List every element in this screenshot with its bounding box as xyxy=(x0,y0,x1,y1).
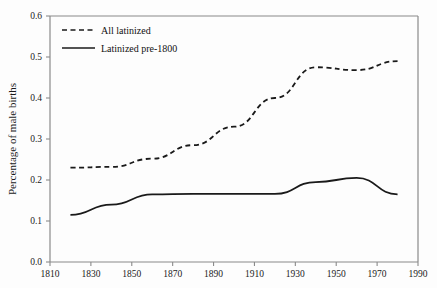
x-axis-ticks: 1810183018501870189019101930195019701990 xyxy=(41,262,428,279)
chart-legend: All latinized Latinized pre-1800 xyxy=(62,25,177,54)
series-line-all-latinized xyxy=(70,61,397,168)
x-tick-label: 1830 xyxy=(81,269,100,279)
x-tick-label: 1970 xyxy=(368,269,387,279)
legend-label-latinized-pre-1800: Latinized pre-1800 xyxy=(101,43,177,54)
y-tick-label: 0.2 xyxy=(30,175,42,185)
y-tick-label: 0.3 xyxy=(30,134,42,144)
y-tick-label: 0.5 xyxy=(30,52,42,62)
x-tick-label: 1850 xyxy=(122,269,141,279)
y-axis-ticks: 0.00.10.20.30.40.50.6 xyxy=(30,11,50,267)
y-axis-title: Percentage of male births xyxy=(6,83,18,195)
chart-figure: 0.00.10.20.30.40.50.6 181018301850187018… xyxy=(0,0,437,288)
chart-plot-area: 0.00.10.20.30.40.50.6 181018301850187018… xyxy=(0,0,437,288)
x-tick-label: 1990 xyxy=(409,269,428,279)
x-tick-label: 1810 xyxy=(41,269,60,279)
data-series-group xyxy=(70,61,397,215)
y-tick-label: 0.6 xyxy=(30,11,42,21)
y-tick-label: 0.4 xyxy=(30,93,42,103)
x-tick-label: 1910 xyxy=(245,269,264,279)
x-tick-label: 1950 xyxy=(327,269,346,279)
x-tick-label: 1930 xyxy=(286,269,305,279)
y-tick-label: 0.0 xyxy=(30,257,42,267)
x-tick-label: 1870 xyxy=(163,269,182,279)
x-tick-label: 1890 xyxy=(204,269,223,279)
series-line-latinized-pre-1800 xyxy=(70,178,397,215)
y-tick-label: 0.1 xyxy=(30,216,42,226)
legend-label-all-latinized: All latinized xyxy=(101,25,151,36)
